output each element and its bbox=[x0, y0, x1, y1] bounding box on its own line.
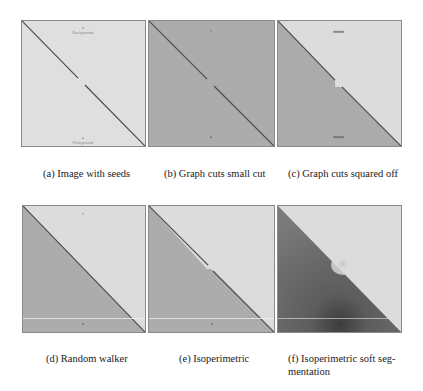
caption-b: (b) Graph cuts small cut bbox=[164, 167, 265, 180]
caption-f: (f) Isoperimetric soft seg- mentation bbox=[288, 352, 400, 378]
random-walker-graphic bbox=[23, 206, 145, 332]
graph-cuts-squared-off-graphic bbox=[278, 21, 401, 146]
panel-d-random-walker bbox=[22, 205, 146, 333]
caption-c: (c) Graph cuts squared off bbox=[288, 167, 398, 180]
caption-a: (a) Image with seeds bbox=[43, 167, 130, 180]
caption-e: (e) Isoperimetric bbox=[179, 352, 249, 365]
panel-f-isoperimetric-soft-segmentation bbox=[277, 205, 402, 333]
image-with-seeds-graphic: Background Foreground bbox=[22, 21, 145, 146]
panel-c-graph-cuts-squared-off bbox=[277, 20, 402, 147]
isoperimetric-soft-segmentation-graphic bbox=[278, 206, 401, 332]
graph-cuts-small-cut-graphic bbox=[149, 21, 274, 146]
panel-e-isoperimetric bbox=[148, 205, 275, 333]
background-seed-label: Background bbox=[73, 30, 94, 35]
isoperimetric-graphic bbox=[149, 206, 274, 332]
caption-d: (d) Random walker bbox=[46, 352, 128, 365]
panel-b-graph-cuts-small-cut bbox=[148, 20, 275, 147]
panel-a-image-with-seeds: Background Foreground bbox=[21, 20, 146, 147]
foreground-seed-label: Foreground bbox=[73, 140, 93, 145]
